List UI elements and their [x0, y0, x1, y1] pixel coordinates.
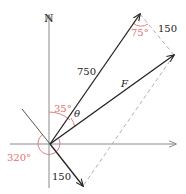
- label-f: F: [120, 78, 129, 89]
- label-35-deg: 35°: [54, 103, 72, 114]
- label-theta: θ: [74, 108, 80, 119]
- angle-arcs: [38, 23, 148, 155]
- bearing-320-line: [22, 109, 50, 144]
- vector-resultant-f: [50, 55, 174, 144]
- label-75-deg: 75°: [131, 27, 149, 38]
- label-150-top: 150: [158, 23, 177, 34]
- labels: 750 F 150 150 35° θ 320° 75°: [7, 23, 177, 182]
- label-750: 750: [77, 66, 96, 77]
- parallelogram: [83, 14, 174, 186]
- north-label: N: [44, 12, 54, 25]
- label-320-deg: 320°: [7, 152, 31, 163]
- label-150-bottom: 150: [52, 171, 71, 182]
- axes: N: [10, 12, 176, 188]
- arc-75: [133, 23, 148, 26]
- force-vector-diagram: N 750 F 150 150 35° θ: [0, 0, 186, 194]
- dashed-side-right: [83, 55, 174, 186]
- vectors: [50, 14, 174, 186]
- arc-theta: [71, 118, 75, 127]
